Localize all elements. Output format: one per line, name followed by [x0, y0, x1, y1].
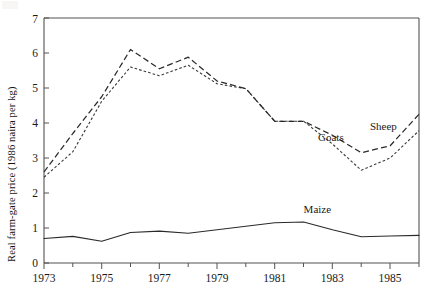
y-tick-label: 7: [32, 13, 38, 25]
y-tick-label: 0: [32, 257, 38, 269]
y-axis-ticks: [44, 18, 49, 263]
y-tick-label: 5: [32, 82, 38, 94]
y-tick-label: 3: [32, 152, 38, 164]
x-tick-label: 1983: [321, 272, 344, 284]
series-line-goats: [44, 65, 419, 177]
x-tick-label: 1975: [90, 272, 113, 284]
x-tick-label: 1977: [148, 272, 171, 284]
y-tick-label: 6: [32, 47, 38, 59]
x-tick-label: 1979: [206, 272, 229, 284]
page-scan-artifact: [2, 1, 18, 9]
series-line-maize: [44, 222, 419, 241]
y-axis-tick-labels: 0 1 2 3 4 5 6 7: [32, 13, 38, 269]
x-tick-label: 1973: [33, 272, 56, 284]
y-axis-label: Real farm-gate price (1986 naira per kg): [6, 86, 18, 262]
x-tick-label: 1985: [379, 272, 402, 284]
line-chart: Real farm-gate price (1986 naira per kg)…: [0, 0, 429, 295]
y-tick-label: 1: [32, 222, 38, 234]
x-axis-ticks: [44, 263, 419, 269]
x-axis-tick-labels: 1973 1975 1977 1979 1981 1983 1985: [33, 272, 402, 284]
x-tick-label: 1981: [263, 272, 286, 284]
y-tick-label: 2: [32, 187, 38, 199]
series-annotation-maize: Maize: [304, 203, 332, 215]
series-annotation-sheep: Sheep: [370, 120, 397, 132]
series-line-sheep: [44, 50, 419, 173]
y-tick-label: 4: [32, 117, 38, 129]
series-annotation-goats: Goats: [318, 131, 344, 143]
figure-container: Real farm-gate price (1986 naira per kg)…: [0, 0, 429, 295]
axis-frame: [44, 18, 419, 263]
